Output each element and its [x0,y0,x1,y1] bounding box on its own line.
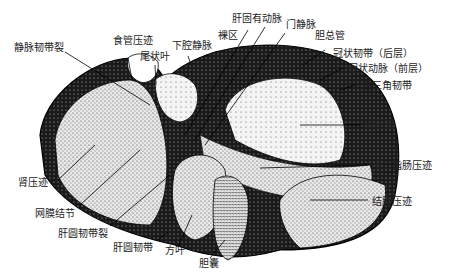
label-proper-hepatic-artery: 肝固有动脉 [232,13,282,24]
label-caudate-lobe: 尾状叶 [140,51,170,62]
label-coronary-ligament-posterior: 冠状韧带（后层） [333,48,413,59]
label-omental-tuber: 网膜结节 [35,208,75,219]
label-ligamentum-teres-fissure: 肝圆韧带裂 [58,228,108,239]
label-ligamentum-teres: 肝圆韧带 [113,242,153,253]
label-esophageal-impression: 食管压迹 [113,35,153,46]
label-ligamentum-venosum-fissure: 静脉韧带裂 [14,42,64,53]
label-quadrate-lobe: 方叶 [165,245,185,256]
liver-diagram: 静脉韧带裂 食管压迹 尾状叶 下腔静脉 裸区 肝固有动脉 门静脉 胆总管 冠状韧… [0,0,449,280]
label-gallbladder: 胆囊 [199,258,219,269]
label-coronary-ligament-anterior: 冠状动脉（前层） [348,63,428,74]
label-bare-area: 裸区 [218,30,238,41]
label-portal-vein: 门静脉 [286,19,316,30]
label-common-bile-duct: 胆总管 [315,30,345,41]
label-colic-impression: 结肠压迹 [372,196,412,207]
label-right-triangular-ligament: 右三角韧带 [362,80,412,91]
label-renal-impression-left: 肾压迹 [18,177,48,188]
label-duodenal-impression: 十二指肠压迹 [372,160,432,171]
label-renal-impression-right: 肾压迹 [365,119,395,130]
label-inferior-vena-cava: 下腔静脉 [172,40,212,51]
